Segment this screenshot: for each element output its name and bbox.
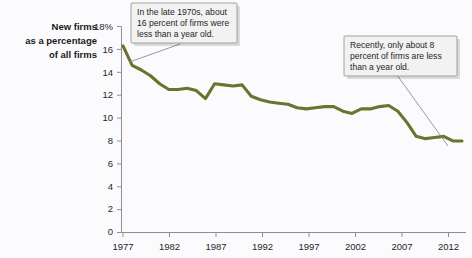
y-tick-label: 8 [108, 135, 113, 146]
y-tick-label: 4 [108, 181, 113, 192]
x-tick-label: 2012 [438, 241, 459, 252]
y-axis-title-line-3: of all firms [49, 49, 97, 60]
x-tick-label: 1982 [159, 241, 180, 252]
new-firms-percentage-line-chart: New firms as a percentage of all firms 1… [0, 0, 472, 258]
late-1970s-callout: In the late 1970s, about 16 percent of f… [131, 3, 240, 46]
x-tick-label: 1992 [252, 241, 273, 252]
leader-line-late-1970s [130, 44, 181, 62]
y-tick-marks [117, 27, 122, 233]
callout-line: In the late 1970s, about [137, 7, 227, 17]
callout-line: than a year old. [350, 62, 409, 72]
callout-line: 16 percent of firms were [137, 18, 229, 28]
x-tick-marks [123, 233, 449, 238]
y-tick-label: 12 [102, 89, 113, 100]
leader-line-recent [397, 75, 448, 146]
y-axis-title-line-1: New firms [52, 21, 97, 32]
y-tick-label: 2 [108, 203, 113, 214]
callout-line: Recently, only about 8 [350, 40, 435, 50]
y-tick-label: 18% [94, 21, 114, 32]
y-tick-label: 0 [108, 226, 113, 237]
x-tick-label: 2007 [391, 241, 412, 252]
callout-line: percent of firms are less [350, 51, 442, 61]
x-tick-label: 2002 [345, 241, 366, 252]
y-tick-label: 6 [108, 158, 113, 169]
x-tick-label: 1997 [298, 241, 319, 252]
y-tick-label: 16 [102, 44, 113, 55]
y-tick-label: 10 [102, 112, 113, 123]
callout-line: less than a year old. [137, 29, 214, 39]
y-axis-title-line-2: as a percentage [25, 35, 97, 46]
recent-callout: Recently, only about 8 percent of firms … [344, 36, 460, 79]
x-tick-labels: 1977 1982 1987 1992 1997 2002 2007 2012 [112, 241, 459, 252]
x-tick-label: 1987 [205, 241, 226, 252]
y-tick-label: 14 [102, 67, 113, 78]
x-tick-label: 1977 [112, 241, 133, 252]
y-axis-title: New firms as a percentage of all firms [25, 21, 97, 60]
